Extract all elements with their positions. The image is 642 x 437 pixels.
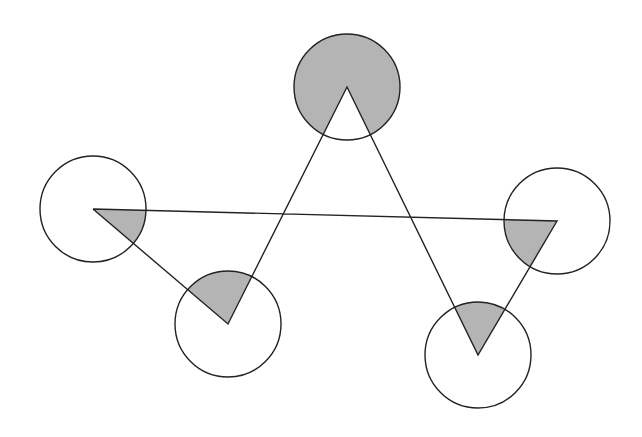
angle-sector-right <box>504 220 557 267</box>
angle-sector-bottom-right <box>455 302 505 355</box>
shaded-angle-sectors <box>93 34 557 355</box>
star-diagram <box>0 0 642 437</box>
